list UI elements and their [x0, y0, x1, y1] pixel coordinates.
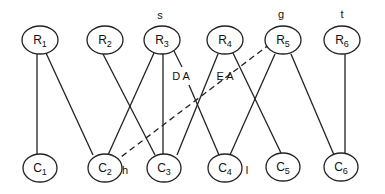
edge-r3-c4-upper [174, 51, 182, 67]
edges [37, 44, 345, 160]
edge-r5-c6 [291, 54, 334, 155]
node-r6: R6 [324, 26, 360, 54]
node-r5: R5 [265, 26, 301, 54]
label-s: s [157, 9, 163, 21]
label-g: g [278, 8, 284, 20]
bipartite-diagram: R1 R2 R3 R4 R5 R6 C1 C2 C3 C4 C5 [0, 0, 385, 194]
node-c6: C6 [324, 153, 358, 181]
node-c3: C3 [147, 154, 181, 182]
label-da: D A [172, 70, 190, 82]
label-h: h [122, 164, 128, 176]
node-r2: R2 [87, 26, 123, 54]
edge-r3-c4-lower [189, 85, 219, 155]
node-r1: R1 [22, 26, 58, 54]
node-c2: C2 [88, 154, 122, 182]
node-r4: R4 [207, 26, 243, 54]
edge-r1-c2 [46, 53, 93, 155]
label-t: t [340, 8, 343, 20]
node-r3: R3 [144, 26, 180, 54]
edge-r4-c5 [233, 53, 281, 153]
label-ea: E A [216, 70, 234, 82]
label-l: l [246, 164, 248, 176]
node-c1: C1 [23, 154, 57, 182]
node-c5: C5 [266, 153, 300, 181]
edge-r5-c2-dashed [117, 44, 270, 160]
node-c4: C4 [208, 154, 242, 182]
